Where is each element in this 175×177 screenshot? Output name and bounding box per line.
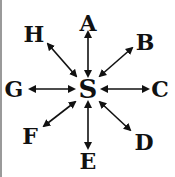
node-label-g: G bbox=[5, 76, 24, 102]
node-label-c: C bbox=[151, 76, 169, 102]
node-label-b: B bbox=[136, 29, 155, 55]
center-node-label: S bbox=[79, 74, 98, 104]
radial-arrow-diagram: S ABCDEFGH bbox=[0, 0, 175, 177]
node-label-h: H bbox=[24, 21, 45, 47]
node-label-a: A bbox=[78, 10, 97, 36]
double-arrow-h bbox=[48, 44, 76, 76]
node-label-d: D bbox=[134, 129, 153, 155]
node-label-f: F bbox=[22, 123, 38, 149]
diagram-frame: S ABCDEFGH bbox=[0, 0, 175, 177]
labels-group: S ABCDEFGH bbox=[5, 10, 169, 174]
double-arrow-d bbox=[100, 102, 130, 130]
double-arrow-f bbox=[44, 102, 75, 126]
double-arrow-b bbox=[100, 48, 132, 76]
node-label-e: E bbox=[80, 148, 97, 174]
